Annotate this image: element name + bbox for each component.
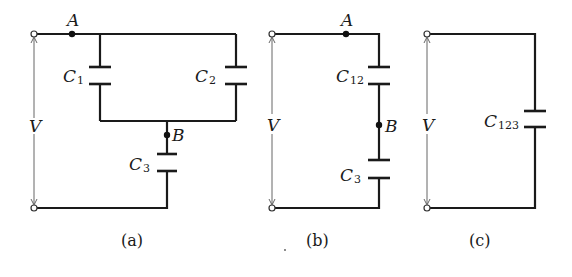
top-wire <box>430 34 535 111</box>
c12-label-sub: 12 <box>350 74 364 87</box>
c1-label: C1 <box>63 66 84 87</box>
c123-label: C123 <box>484 111 519 132</box>
node-b-label: B <box>171 125 185 145</box>
c3-label: C3 <box>340 165 361 186</box>
c3-label: C3 <box>129 154 150 175</box>
c2-label-base: C <box>195 66 208 86</box>
bottom-wire <box>430 127 535 208</box>
stray-dot <box>284 249 286 251</box>
caption-b: (b) <box>306 231 329 250</box>
node-b-dot <box>376 122 382 128</box>
top-wire <box>275 34 379 67</box>
c2-label: C2 <box>195 66 216 87</box>
c123-label-sub: 123 <box>498 119 519 132</box>
node-b-dot <box>164 132 170 138</box>
node-b-label: B <box>384 116 398 136</box>
capacitor-circuit-figure: V A B C1 C2 C3 (a) V A B C12 C3 (b) <box>0 0 572 277</box>
voltage-label: V <box>267 115 281 135</box>
caption-c: (c) <box>469 231 490 250</box>
panel-b: V A B C12 C3 (b) <box>267 10 398 251</box>
panel-a: V A B C1 C2 C3 (a) <box>29 10 247 250</box>
panel-c: V C123 (c) <box>422 31 546 250</box>
node-a-label: A <box>65 10 79 30</box>
c3-label-sub: 3 <box>143 162 150 175</box>
c123-label-base: C <box>484 111 497 131</box>
c3-label-sub: 3 <box>354 173 361 186</box>
bottom-wire <box>37 171 167 208</box>
voltage-label: V <box>422 115 436 135</box>
node-a-dot <box>69 31 75 37</box>
node-a-label: A <box>339 10 353 30</box>
c3-label-base: C <box>340 165 353 185</box>
c3-label-base: C <box>129 154 142 174</box>
c1-label-sub: 1 <box>77 74 84 87</box>
c12-label: C12 <box>336 66 364 87</box>
c2-label-sub: 2 <box>209 74 216 87</box>
c1-label-base: C <box>63 66 76 86</box>
c12-label-base: C <box>336 66 349 86</box>
bottom-wire <box>275 178 379 208</box>
voltage-label: V <box>29 116 43 136</box>
node-a-dot <box>343 31 349 37</box>
caption-a: (a) <box>121 231 143 250</box>
